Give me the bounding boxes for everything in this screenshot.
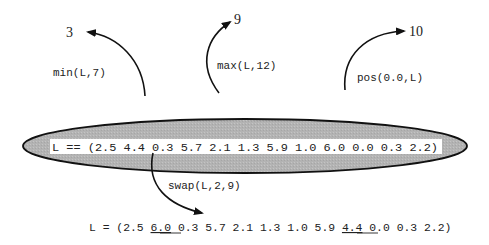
min-arrow <box>88 32 145 96</box>
swap-call: swap(L,2,9) <box>168 180 241 192</box>
list-expression: L == (2.5 4.4 0.3 5.7 2.1 1.3 5.9 1.0 6.… <box>52 142 438 154</box>
swap-result-prefix: L = (2.5 <box>89 222 151 234</box>
swap-result: L = (2.5 6.0 0.3 5.7 2.1 1.3 1.0 5.9 4.4… <box>89 222 451 234</box>
swap-result-suffix: 0.0 0.3 2.2) <box>362 222 451 234</box>
min-call: min(L,7) <box>53 67 106 79</box>
swapped-value-first: 6.0 <box>151 222 172 234</box>
pos-call: pos(0.0,L) <box>357 72 423 84</box>
pos-result: 10 <box>409 24 423 39</box>
min-result: 3 <box>66 25 73 40</box>
max-call: max(L,12) <box>217 60 276 72</box>
max-arrow <box>207 22 230 93</box>
swap-result-middle: 0.3 5.7 2.1 1.3 1.0 5.9 <box>171 222 342 234</box>
list-operations-diagram: L == (2.5 4.4 0.3 5.7 2.1 1.3 5.9 1.0 6.… <box>0 0 489 245</box>
swapped-value-second: 4.4 <box>342 222 363 234</box>
max-result: 9 <box>234 12 241 27</box>
